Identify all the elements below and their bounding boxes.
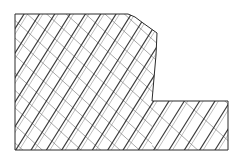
hatched-section-figure: Hatched stepped cross-section [0, 0, 241, 161]
figure-root: Hatched stepped cross-section [0, 0, 241, 161]
